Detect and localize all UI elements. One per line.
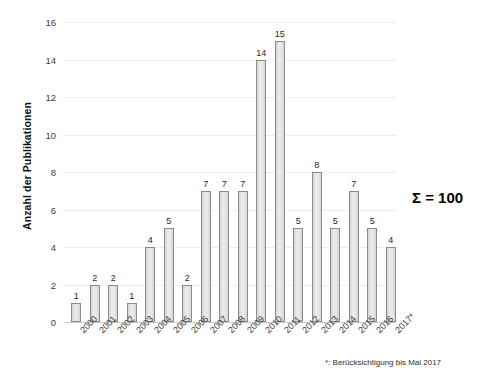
y-tick-label: 16 xyxy=(45,17,56,28)
bar-value-label: 1 xyxy=(67,291,86,301)
publications-bar-chart: Anzahl der Publikationen 0 2 4 6 8 10 12… xyxy=(0,0,504,384)
bar-value-label: 4 xyxy=(141,235,160,245)
bar-value-label: 7 xyxy=(234,179,253,189)
bar-value-label: 8 xyxy=(308,160,327,170)
y-tick-label: 10 xyxy=(45,129,56,140)
bar-value-label: 7 xyxy=(345,179,364,189)
bar[interactable] xyxy=(256,60,266,323)
bar-value-label: 5 xyxy=(289,216,308,226)
y-tick-label: 4 xyxy=(51,242,56,253)
footnote-text: *: Berücksichtigung bis Mai 2017 xyxy=(325,358,441,367)
bar-value-label: 5 xyxy=(363,216,382,226)
bar-value-label: 2 xyxy=(86,273,105,283)
gridline xyxy=(64,210,396,211)
y-axis-tick-labels: 0 2 4 6 8 10 12 14 16 xyxy=(0,22,60,322)
bar-value-label: 5 xyxy=(326,216,345,226)
bar-value-label: 2 xyxy=(178,273,197,283)
y-tick-label: 0 xyxy=(51,317,56,328)
sum-annotation: Σ = 100 xyxy=(412,189,463,206)
bar-value-label: 7 xyxy=(197,179,216,189)
bar-value-label: 4 xyxy=(382,235,401,245)
bar-value-label: 2 xyxy=(104,273,123,283)
x-axis-tick-labels: 2000200120022003200420052006200720082009… xyxy=(64,322,404,382)
gridline xyxy=(64,97,396,98)
y-tick-label: 6 xyxy=(51,204,56,215)
bar[interactable] xyxy=(312,172,322,322)
gridline xyxy=(64,135,396,136)
y-tick-label: 8 xyxy=(51,167,56,178)
bar[interactable] xyxy=(275,41,285,322)
bar-value-label: 5 xyxy=(160,216,179,226)
y-tick-label: 14 xyxy=(45,54,56,65)
y-tick-label: 2 xyxy=(51,279,56,290)
bar-value-label: 7 xyxy=(215,179,234,189)
gridline xyxy=(64,247,396,248)
bar-value-label: 15 xyxy=(271,29,290,39)
gridline xyxy=(64,172,396,173)
bar-value-label: 14 xyxy=(252,48,271,58)
bar[interactable] xyxy=(71,303,81,322)
gridline xyxy=(64,60,396,61)
y-tick-label: 12 xyxy=(45,92,56,103)
gridline xyxy=(64,22,396,23)
plot-area: 12214527771415585754 xyxy=(64,22,396,322)
